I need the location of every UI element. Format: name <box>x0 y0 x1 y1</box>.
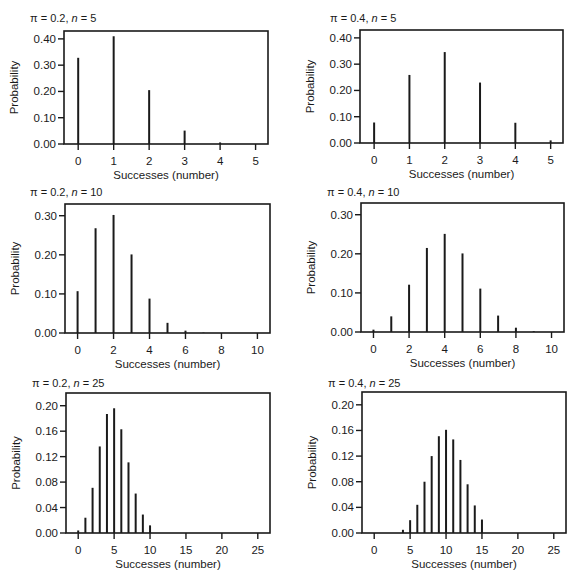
chart-panel-3: π = 0.2, n = 100.000.100.200.300246810Su… <box>9 186 270 370</box>
chart-panel-6: π = 0.4, n = 250.000.040.080.120.160.200… <box>306 377 566 570</box>
y-tick-label: 0.10 <box>35 288 57 300</box>
y-tick-label: 0.08 <box>36 476 58 488</box>
x-tick-label: 20 <box>511 544 524 556</box>
x-axis-label: Successes (number) <box>409 168 515 180</box>
panel-title: π = 0.4, n = 10 <box>327 186 399 198</box>
y-axis-label: Probability <box>9 241 21 295</box>
x-tick-label: 10 <box>440 544 453 556</box>
y-tick-label: 0.00 <box>36 527 58 539</box>
plot-frame <box>66 393 270 533</box>
y-tick-label: 0.40 <box>34 33 56 45</box>
x-tick-label: 20 <box>215 544 228 556</box>
chart-panel-2: π = 0.4, n = 50.000.100.200.300.40012345… <box>304 12 563 180</box>
x-tick-label: 0 <box>75 544 81 556</box>
x-tick-label: 25 <box>251 544 264 556</box>
panel-title: π = 0.2, n = 5 <box>30 12 96 24</box>
x-tick-label: 1 <box>406 154 412 166</box>
x-tick-label: 4 <box>217 155 224 167</box>
y-tick-label: 0.04 <box>332 501 355 513</box>
y-axis-label: Probability <box>8 60 20 114</box>
x-tick-label: 8 <box>513 343 519 355</box>
y-tick-label: 0.00 <box>35 327 57 339</box>
panel-title: π = 0.2, n = 25 <box>32 377 104 389</box>
y-tick-label: 0.20 <box>35 249 57 261</box>
x-axis-label: Successes (number) <box>411 558 517 570</box>
plot-frame <box>360 30 563 143</box>
y-tick-label: 0.30 <box>330 58 352 70</box>
x-tick-label: 0 <box>75 155 81 167</box>
x-tick-label: 5 <box>111 544 117 556</box>
x-tick-label: 5 <box>547 154 553 166</box>
x-tick-label: 6 <box>182 344 188 356</box>
x-tick-label: 15 <box>180 544 193 556</box>
y-tick-label: 0.04 <box>36 502 59 514</box>
x-tick-label: 6 <box>477 343 483 355</box>
panel-title: π = 0.4, n = 25 <box>328 377 400 389</box>
chart-panel-5: π = 0.2, n = 250.000.040.080.120.160.200… <box>10 377 270 570</box>
plot-frame <box>362 392 566 533</box>
figure: π = 0.2, n = 50.000.100.200.300.40012345… <box>0 0 577 586</box>
x-tick-label: 3 <box>181 155 187 167</box>
x-tick-label: 10 <box>144 544 157 556</box>
y-tick-label: 0.20 <box>330 84 352 96</box>
y-tick-label: 0.30 <box>34 59 56 71</box>
y-tick-label: 0.30 <box>331 209 353 221</box>
x-tick-label: 0 <box>370 343 376 355</box>
x-tick-label: 3 <box>477 154 483 166</box>
x-tick-label: 2 <box>406 343 412 355</box>
x-tick-label: 15 <box>476 544 489 556</box>
y-tick-label: 0.30 <box>35 210 57 222</box>
x-axis-label: Successes (number) <box>113 169 219 181</box>
x-tick-label: 0 <box>371 544 377 556</box>
chart-panel-4: π = 0.4, n = 100.000.100.200.300246810Su… <box>305 186 564 369</box>
x-tick-label: 4 <box>441 343 448 355</box>
x-tick-label: 2 <box>110 344 116 356</box>
y-tick-label: 0.08 <box>332 476 354 488</box>
y-tick-label: 0.20 <box>34 85 56 97</box>
y-tick-label: 0.10 <box>330 111 352 123</box>
x-tick-label: 2 <box>146 155 152 167</box>
x-tick-label: 2 <box>442 154 448 166</box>
y-tick-label: 0.00 <box>331 326 353 338</box>
x-tick-label: 0 <box>74 344 80 356</box>
panel-title: π = 0.4, n = 5 <box>330 12 396 24</box>
x-tick-label: 5 <box>407 544 413 556</box>
y-tick-label: 0.00 <box>34 138 56 150</box>
y-tick-label: 0.10 <box>34 112 56 124</box>
y-axis-label: Probability <box>10 436 22 490</box>
y-axis-label: Probability <box>304 59 316 113</box>
x-tick-label: 8 <box>218 344 224 356</box>
plot-frame <box>64 31 268 144</box>
x-tick-label: 0 <box>371 154 377 166</box>
y-tick-label: 0.00 <box>332 527 354 539</box>
x-tick-label: 10 <box>251 344 264 356</box>
x-axis-label: Successes (number) <box>115 358 221 370</box>
y-tick-label: 0.20 <box>331 248 353 260</box>
x-tick-label: 25 <box>547 544 560 556</box>
x-tick-label: 10 <box>545 343 558 355</box>
y-axis-label: Probability <box>306 435 318 489</box>
y-tick-label: 0.12 <box>332 450 354 462</box>
panel-title: π = 0.2, n = 10 <box>30 186 102 198</box>
x-tick-label: 1 <box>110 155 116 167</box>
y-tick-label: 0.10 <box>331 287 353 299</box>
y-tick-label: 0.40 <box>330 32 352 44</box>
x-tick-label: 5 <box>252 155 258 167</box>
y-tick-label: 0.00 <box>330 137 352 149</box>
y-tick-label: 0.12 <box>36 451 58 463</box>
y-tick-label: 0.16 <box>36 425 58 437</box>
y-tick-label: 0.20 <box>332 399 354 411</box>
y-tick-label: 0.20 <box>36 400 58 412</box>
x-tick-label: 4 <box>512 154 519 166</box>
chart-panel-1: π = 0.2, n = 50.000.100.200.300.40012345… <box>8 12 268 181</box>
y-axis-label: Probability <box>305 240 317 294</box>
x-axis-label: Successes (number) <box>115 558 221 570</box>
x-axis-label: Successes (number) <box>410 357 516 369</box>
x-tick-label: 4 <box>146 344 153 356</box>
y-tick-label: 0.16 <box>332 424 354 436</box>
